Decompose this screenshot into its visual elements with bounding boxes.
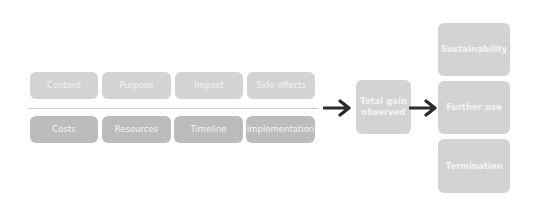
factor-impact: Impact [175, 72, 243, 99]
total-gain-box: Total gain observed [356, 80, 411, 134]
factor-purpose: Purpose [102, 72, 171, 99]
outcome-label: Further use [446, 102, 502, 113]
factor-label: Purpose [119, 80, 153, 91]
factor-implementation: Implementation [246, 116, 315, 143]
arrow-right-icon [409, 98, 439, 118]
factor-costs: Costs [30, 116, 98, 143]
divider-line [28, 108, 318, 109]
factor-resources: Resources [102, 116, 171, 143]
outcome-label: Termination [445, 161, 502, 172]
factor-label: Implementation [247, 124, 315, 135]
factor-timeline: Timeline [174, 116, 243, 143]
factor-label: Content [47, 80, 81, 91]
factor-label: Costs [52, 124, 75, 135]
factor-label: Timeline [190, 124, 226, 135]
outcome-label: Sustainability [441, 44, 507, 55]
factor-side-effects: Side effects [247, 72, 315, 99]
outcome-further-use: Further use [438, 81, 510, 134]
outcome-sustainability: Sustainability [438, 23, 510, 76]
outcome-termination: Termination [438, 139, 510, 193]
arrow-right-icon [323, 98, 353, 118]
factor-label: Side effects [256, 80, 306, 91]
total-gain-label: Total gain observed [358, 96, 409, 117]
factor-content: Content [30, 72, 98, 99]
factor-label: Impact [194, 80, 223, 91]
factor-label: Resources [115, 124, 158, 135]
